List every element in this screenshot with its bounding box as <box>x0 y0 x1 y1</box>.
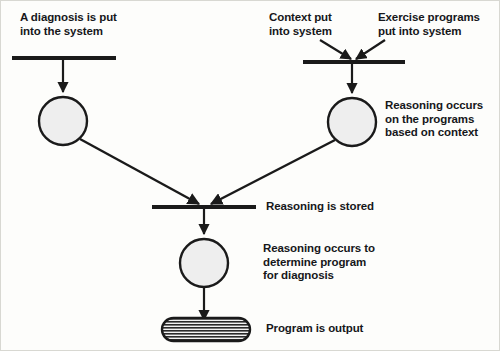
label-context-input: Context put into system <box>269 11 332 38</box>
label-reasoning-determine: Reasoning occurs to determine program fo… <box>263 242 375 283</box>
label-exercise-input: Exercise programs put into system <box>378 11 480 38</box>
label-program-output: Program is output <box>266 322 363 336</box>
label-reasoning-stored: Reasoning is stored <box>266 200 374 214</box>
diagram-canvas <box>0 0 500 351</box>
diagram-root: A diagnosis is put into the system Conte… <box>0 0 500 351</box>
edge-circle-diagnosis-to-bar-stored <box>80 139 199 204</box>
edge-circle-programs-to-bar-stored <box>211 140 335 204</box>
circle-determine <box>180 239 228 287</box>
group-diagnosis-input <box>12 58 116 92</box>
circle-programs <box>328 98 376 146</box>
group-context-exercise-input <box>303 40 405 93</box>
edge-exercise-to-bar <box>356 40 385 59</box>
label-diagnosis-input: A diagnosis is put into the system <box>20 11 117 38</box>
circle-diagnosis <box>39 97 87 145</box>
edge-context-to-bar <box>320 40 351 59</box>
label-reasoning-programs: Reasoning occurs on the programs based o… <box>385 99 483 140</box>
stadium-output <box>162 318 250 341</box>
